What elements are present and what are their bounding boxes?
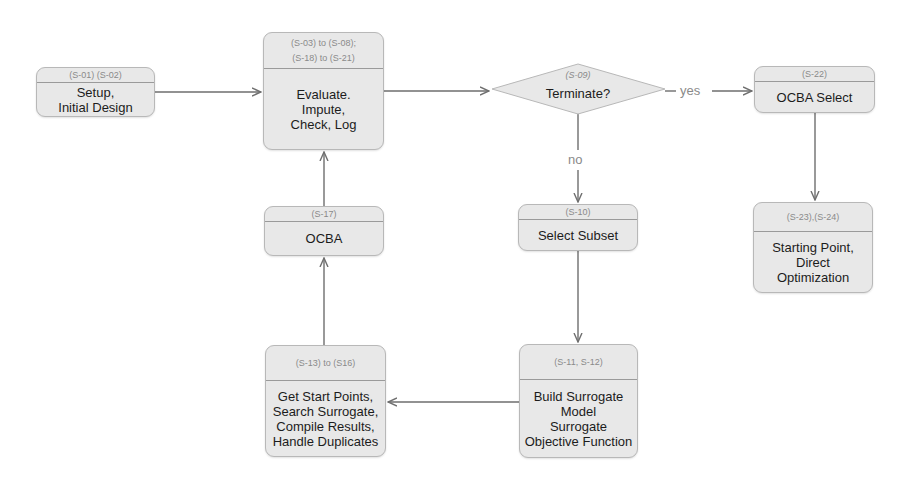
node-starting-point: (S-23),(S-24) Starting Point, Direct Opt… [753, 202, 873, 293]
node-get-start-points-label: Get Start Points, Search Surrogate, Comp… [266, 381, 385, 456]
label-line: Handle Duplicates [273, 434, 379, 449]
node-ocba-select-label: OCBA Select [755, 82, 874, 112]
node-setup: (S-01) (S-02) Setup, Initial Design [36, 67, 155, 117]
label-line: Build Surrogate [525, 389, 633, 404]
label-line: Evaluate. [291, 87, 357, 102]
node-build-surrogate-ref: (S-11, S-12) [520, 345, 637, 380]
label-line: Check, Log [291, 117, 357, 132]
node-setup-ref: (S-01) (S-02) [37, 68, 154, 83]
edge-label-no: no [565, 152, 585, 167]
label-line: Search Surrogate, [273, 404, 379, 419]
node-build-surrogate: (S-11, S-12) Build Surrogate Model Surro… [519, 344, 638, 458]
node-starting-point-label: Starting Point, Direct Optimization [754, 232, 872, 292]
label-line: Compile Results, [273, 419, 379, 434]
node-setup-label: Setup, Initial Design [37, 83, 154, 116]
node-terminate-ref: (S-09) [548, 70, 608, 80]
edge-label-yes: yes [677, 83, 703, 98]
node-evaluate: (S-03) to (S-08); (S-18) to (S-21) Evalu… [263, 32, 384, 150]
node-evaluate-ref: (S-03) to (S-08); (S-18) to (S-21) [264, 33, 383, 69]
node-get-start-points-ref: (S-13) to (S16) [266, 346, 385, 381]
label-line: Direct [772, 255, 854, 270]
label-line: Starting Point, [772, 240, 854, 255]
node-terminate-label: Terminate? [528, 86, 628, 101]
node-build-surrogate-label: Build Surrogate Model Surrogate Objectiv… [520, 380, 637, 457]
node-starting-point-ref: (S-23),(S-24) [754, 203, 872, 232]
node-ocba-select: (S-22) OCBA Select [754, 66, 875, 113]
node-ocba-select-ref: (S-22) [755, 67, 874, 82]
node-select-subset-label: Select Subset [519, 220, 637, 250]
label-line: Optimization [772, 270, 854, 285]
node-ocba: (S-17) OCBA [264, 206, 384, 256]
label-line: Setup, [58, 85, 132, 100]
node-ocba-ref: (S-17) [265, 207, 383, 222]
node-select-subset: (S-10) Select Subset [518, 204, 638, 251]
node-ocba-label: OCBA [265, 222, 383, 255]
ref-line: (S-18) to (S-21) [264, 52, 383, 64]
ref-line: (S-03) to (S-08); [264, 37, 383, 49]
label-line: Get Start Points, [273, 389, 379, 404]
label-line: Model [525, 404, 633, 419]
label-line: Initial Design [58, 100, 132, 115]
label-line: Surrogate [525, 419, 633, 434]
node-get-start-points: (S-13) to (S16) Get Start Points, Search… [265, 345, 386, 457]
label-line: Objective Function [525, 434, 633, 449]
label-line: Impute, [291, 102, 357, 117]
node-select-subset-ref: (S-10) [519, 205, 637, 220]
node-evaluate-label: Evaluate. Impute, Check, Log [264, 69, 383, 149]
